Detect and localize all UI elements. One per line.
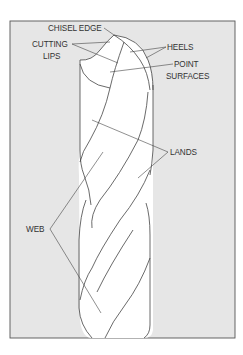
label-web: WEB [26,225,45,234]
label-heels: HEELS [167,43,194,52]
label-point-surfaces-line2: SURFACES [166,72,210,81]
label-chisel-edge: CHISEL EDGE [48,24,102,33]
drill-diagram: CHISEL EDGE CUTTING LIPS HEELS POINT SUR… [0,0,243,355]
label-lands: LANDS [170,148,197,157]
label-point-surfaces-line1: POINT [174,60,199,69]
label-cutting-lips-line1: CUTTING [32,40,68,49]
label-cutting-lips-line2: LIPS [43,52,61,61]
